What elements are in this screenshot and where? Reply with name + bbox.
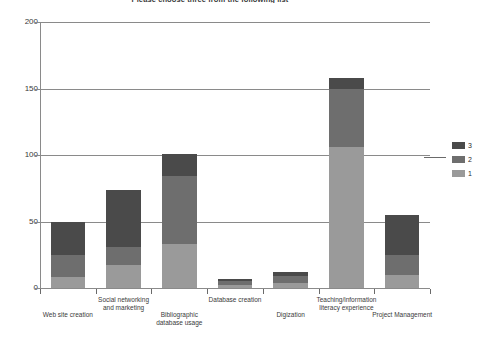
- bar-column: [51, 222, 86, 288]
- x-axis-label: Digization: [253, 311, 329, 319]
- x-axis-label: Web site creation: [30, 311, 106, 319]
- legend-swatch: [452, 156, 465, 163]
- chart-title: Please choose three from the following l…: [0, 0, 420, 3]
- bar-segment: [385, 255, 420, 275]
- legend-label: 2: [468, 156, 472, 163]
- x-axis-label: Database creation: [197, 296, 273, 304]
- bar-segment: [385, 215, 420, 255]
- x-axis-label: Social networking and marketing: [86, 296, 162, 311]
- bar-segment: [106, 247, 141, 266]
- bar-segment: [106, 265, 141, 288]
- bar-segment: [273, 276, 308, 283]
- bar-segment: [273, 283, 308, 288]
- x-tick-mark: [96, 289, 97, 294]
- bar-segment: [162, 176, 197, 244]
- x-tick-mark: [319, 289, 320, 294]
- x-axis-label: Teaching/information literacy experience: [308, 296, 384, 311]
- bar-segment: [162, 244, 197, 288]
- bar-column: [329, 78, 364, 288]
- x-tick-mark: [40, 289, 41, 294]
- chart-legend: 321: [452, 140, 472, 182]
- x-tick-mark: [207, 289, 208, 294]
- legend-swatch: [452, 142, 465, 149]
- x-tick-mark: [263, 289, 264, 294]
- gridline: [40, 288, 430, 289]
- legend-rule: [424, 157, 446, 158]
- bar-column: [273, 272, 308, 288]
- bar-column: [385, 215, 420, 288]
- bar-segment: [329, 147, 364, 288]
- legend-swatch: [452, 170, 465, 177]
- x-axis-label: Bibliographic database usage: [141, 311, 217, 326]
- bar-segment: [329, 89, 364, 148]
- x-tick-mark: [151, 289, 152, 294]
- bar-segment: [385, 275, 420, 288]
- legend-item[interactable]: 1: [452, 168, 472, 179]
- bar-segment: [218, 285, 253, 288]
- legend-label: 3: [468, 142, 472, 149]
- bar-segment: [329, 78, 364, 89]
- legend-item[interactable]: 2: [452, 154, 472, 165]
- legend-label: 1: [468, 170, 472, 177]
- bar-segment: [51, 255, 86, 278]
- x-tick-mark: [374, 289, 375, 294]
- bar-segment: [162, 154, 197, 177]
- bar-column: [162, 154, 197, 288]
- legend-item[interactable]: 3: [452, 140, 472, 151]
- bar-column: [106, 190, 141, 288]
- bar-column: [218, 279, 253, 288]
- x-tick-mark: [430, 289, 431, 294]
- bar-segment: [51, 277, 86, 288]
- bar-segment: [51, 222, 86, 255]
- bar-chart: Please choose three from the following l…: [0, 0, 490, 337]
- plot-area: [40, 22, 430, 288]
- bar-segment: [106, 190, 141, 247]
- x-axis-label: Project Management: [364, 311, 440, 319]
